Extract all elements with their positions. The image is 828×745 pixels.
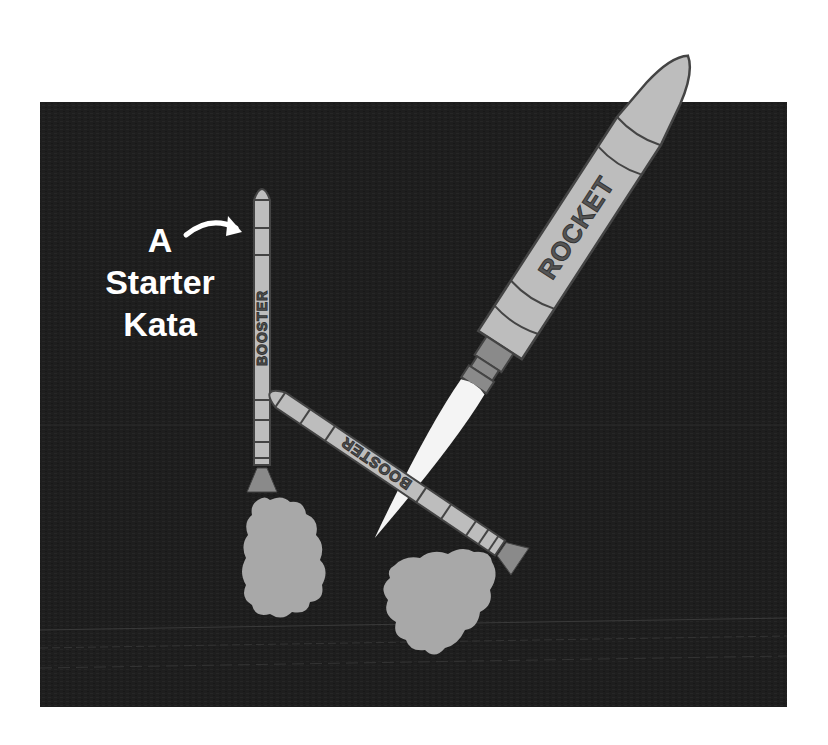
title-line-kata: Kata <box>123 305 198 343</box>
rocket-illustration: A Starter Kata BOOSTER ROCKET <box>0 0 828 745</box>
title-line-starter: Starter <box>105 263 215 301</box>
title-line-a: A <box>148 221 173 259</box>
left-booster-label: BOOSTER <box>254 290 270 366</box>
